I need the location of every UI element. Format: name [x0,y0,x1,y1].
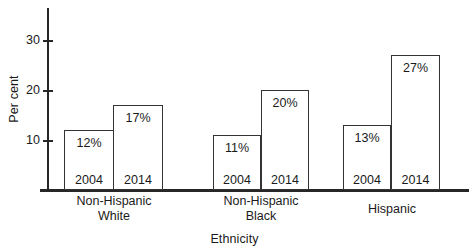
y-tick-mark-30 [43,40,53,42]
bar-value-label: 27% [392,61,439,75]
bar-year-label: 2014 [114,173,162,187]
bar-value-label: 11% [214,141,260,155]
y-tick-mark-20 [43,90,53,92]
y-tick-label-20: 20 [12,83,40,97]
x-category-label-non-hispanic-white: Non-Hispanic White [54,194,174,224]
x-category-label-hispanic: Hispanic [332,202,452,217]
bar-value-label: 13% [344,131,390,145]
bar-value-label: 12% [65,136,113,150]
bar-year-label: 2004 [65,173,113,187]
bar-non-hispanic-white-2004[interactable]: 12% 2004 [64,130,114,190]
x-category-label-non-hispanic-black: Non-Hispanic Black [201,194,321,224]
y-tick-mark-10 [43,140,53,142]
bar-non-hispanic-black-2004[interactable]: 11% 2004 [213,135,261,190]
category-label-line1: Non-Hispanic [201,194,321,209]
y-axis-title: Per cent [7,64,21,134]
bar-year-label: 2014 [392,173,439,187]
bar-year-label: 2014 [262,173,308,187]
category-label-line1: Non-Hispanic [54,194,174,209]
bar-non-hispanic-black-2014[interactable]: 20% 2014 [261,90,309,190]
bar-value-label: 20% [262,96,308,110]
category-label-line2: Black [201,209,321,224]
y-tick-label-30: 30 [12,33,40,47]
bar-value-label: 17% [114,111,162,125]
category-label-line2: White [54,209,174,224]
y-axis-line [47,8,49,191]
category-label-line1: Hispanic [332,202,452,217]
bar-year-label: 2004 [214,173,260,187]
bar-hispanic-2014[interactable]: 27% 2014 [391,55,440,190]
bar-chart: Per cent 30 20 10 12% 2004 17% 2014 Non-… [0,0,469,252]
bar-hispanic-2004[interactable]: 13% 2004 [343,125,391,190]
cropped-title-remnant [0,0,469,4]
bar-non-hispanic-white-2014[interactable]: 17% 2014 [113,105,163,190]
y-tick-label-10: 10 [12,133,40,147]
bar-year-label: 2004 [344,173,390,187]
x-axis-title: Ethnicity [0,232,469,246]
